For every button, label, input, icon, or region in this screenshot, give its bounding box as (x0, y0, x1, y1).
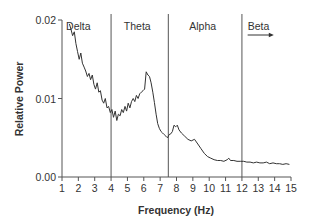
x-tick-label: 3 (92, 182, 98, 194)
x-axis-ticks: 123456789101112131415 (59, 177, 297, 194)
x-axis-title: Frequency (Hz) (138, 204, 214, 216)
band-label-alpha: Alpha (189, 20, 216, 32)
arrowhead-icon (269, 33, 274, 37)
x-tick-label: 15 (285, 182, 297, 194)
y-axis-title: Relative Power (13, 62, 25, 137)
x-tick-label: 5 (125, 182, 131, 194)
axes (62, 20, 291, 177)
x-tick-label: 8 (174, 182, 180, 194)
x-tick-label: 2 (75, 182, 81, 194)
x-tick-label: 14 (269, 182, 281, 194)
band-boundaries (111, 14, 242, 177)
y-tick-label: 0.01 (36, 93, 57, 105)
power-spectrum-line (69, 24, 289, 165)
band-label-beta: Beta (248, 20, 270, 32)
x-tick-label: 13 (252, 182, 264, 194)
x-tick-label: 12 (236, 182, 248, 194)
x-tick-label: 4 (108, 182, 114, 194)
x-tick-label: 7 (157, 182, 163, 194)
y-axis-ticks: 0.000.010.02 (36, 14, 62, 183)
x-tick-label: 1 (59, 182, 65, 194)
y-tick-label: 0.00 (36, 171, 57, 183)
y-tick-label: 0.02 (36, 14, 57, 26)
x-tick-label: 10 (203, 182, 215, 194)
band-labels: DeltaThetaAlphaBeta (66, 20, 274, 37)
band-label-theta: Theta (124, 20, 151, 32)
x-tick-label: 11 (220, 182, 231, 194)
relative-power-chart: DeltaThetaAlphaBeta 0.000.010.02 1234567… (0, 0, 311, 224)
x-tick-label: 6 (141, 182, 147, 194)
x-tick-label: 9 (190, 182, 196, 194)
